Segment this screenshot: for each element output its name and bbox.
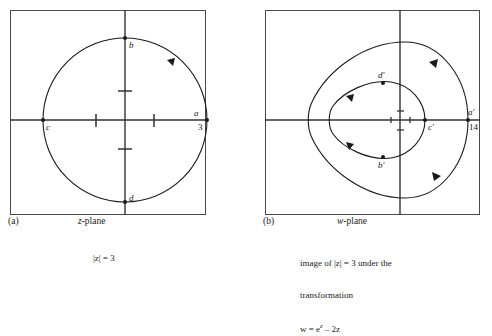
panel-a-plane-label: z-plane: [78, 216, 105, 226]
point-b-prime-marker: [381, 155, 385, 159]
point-c-marker: [41, 118, 45, 122]
point-label-d: d: [129, 193, 134, 203]
panel-w-plane: d′ b′ c′ a′ 14: [265, 10, 480, 215]
orientation-arrow-outer-upper: [429, 59, 438, 68]
panel-b-tag: (b): [263, 216, 274, 226]
point-label-b: b: [129, 40, 134, 50]
point-label-b-prime: b′: [378, 160, 384, 170]
z-plane-plot: [10, 10, 206, 215]
panel-a-caption-line-1: |z| = 3: [93, 253, 115, 263]
panel-b-plane-label: w-plane: [337, 216, 367, 226]
point-label-c: c: [46, 122, 50, 132]
point-d-marker: [123, 200, 127, 204]
axis-label-three: 3: [198, 122, 203, 132]
axis-label-fourteen: 14: [469, 122, 478, 132]
point-label-a: a: [194, 108, 199, 118]
point-label-c-prime: c′: [428, 122, 434, 132]
panel-b-caption-line-2: transformation: [300, 290, 392, 301]
orientation-arrow-a: [167, 58, 175, 66]
panel-b-plane-rest: -plane: [343, 216, 367, 226]
panel-a-tag: (a): [8, 216, 19, 226]
point-a-marker: [205, 118, 209, 122]
point-d-prime-marker: [381, 81, 385, 85]
panel-b-caption-formula-tail: – 2z: [323, 324, 341, 334]
panel-a-caption: |z| = 3: [84, 242, 115, 274]
panel-z-plane: b a c d 3: [10, 10, 206, 215]
orientation-arrow-inner-upper: [346, 94, 354, 102]
point-c-prime-marker: [423, 118, 427, 122]
w-plane-plot: [265, 10, 480, 215]
orientation-arrow-outer-lower: [432, 172, 441, 181]
panel-b-caption-line-3: w = ez – 2z: [300, 321, 392, 335]
panel-b-caption-formula-head: w = e: [300, 324, 320, 334]
panel-b-caption-line-1: image of |z| = 3 under the: [300, 258, 392, 269]
point-label-d-prime: d′: [378, 70, 384, 80]
point-b-marker: [123, 36, 127, 40]
point-label-a-prime: a′: [468, 107, 474, 117]
panel-b-caption: image of |z| = 3 under the transformatio…: [300, 237, 392, 336]
panel-a-plane-rest: -plane: [82, 216, 106, 226]
